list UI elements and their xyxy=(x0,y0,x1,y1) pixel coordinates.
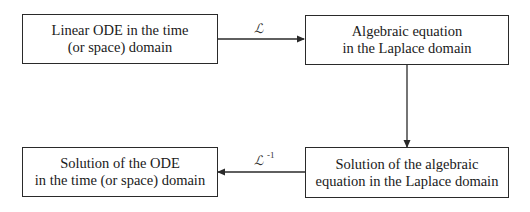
box-algebraic-solution-line2: equation in the Laplace domain xyxy=(316,173,499,190)
laplace-transform-symbol: ℒ xyxy=(254,21,263,37)
box-algebraic-equation-line2: in the Laplace domain xyxy=(342,40,471,57)
box-linear-ode-line2: (or space) domain xyxy=(68,39,173,56)
box-ode-solution: Solution of the ODE in the time (or spac… xyxy=(22,147,218,197)
box-ode-solution-line2: in the time (or space) domain xyxy=(35,172,205,189)
box-algebraic-solution: Solution of the algebraic equation in th… xyxy=(305,147,509,198)
inverse-superscript: -1 xyxy=(267,150,275,160)
box-linear-ode-line1: Linear ODE in the time xyxy=(52,22,189,39)
box-ode-solution-line1: Solution of the ODE xyxy=(60,155,180,172)
box-algebraic-solution-line1: Solution of the algebraic xyxy=(336,156,479,173)
inverse-laplace-transform-symbol: ℒ xyxy=(254,153,263,169)
box-linear-ode: Linear ODE in the time (or space) domain xyxy=(22,14,218,64)
box-algebraic-equation: Algebraic equation in the Laplace domain xyxy=(305,15,509,65)
box-algebraic-equation-line1: Algebraic equation xyxy=(352,23,463,40)
